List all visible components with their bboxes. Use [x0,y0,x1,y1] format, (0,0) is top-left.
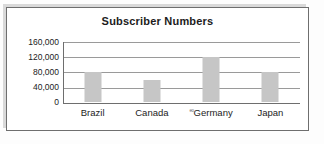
chart-title: Subscriber Numbers [6,15,309,27]
bar-slot-germany [182,41,241,102]
y-tick-0: 0 [13,97,59,107]
x-axis-tick-labels: Brazil Canada eoGermany Japan [63,107,300,123]
bar-canada[interactable] [143,80,160,102]
bar-chart: Subscriber Numbers 160,000 120,000 80,00… [6,7,309,131]
y-tick-80000: 80,000 [13,67,59,77]
bar-brazil[interactable] [84,72,101,103]
x-tick-japan: Japan [241,107,300,118]
y-tick-40000: 40,000 [13,82,59,92]
x-tick-canada: Canada [122,107,181,118]
y-tick-160000: 160,000 [13,37,59,47]
y-tick-120000: 120,000 [13,52,59,62]
scanned-page: Subscriber Numbers 160,000 120,000 80,00… [0,0,324,144]
y-axis-tick-labels: 160,000 120,000 80,000 40,000 0 [11,42,59,103]
x-tick-brazil: Brazil [63,107,122,118]
plot-area [63,42,300,103]
x-axis-line [63,103,300,104]
bar-japan[interactable] [262,72,279,102]
bar-slot-japan [241,41,300,102]
bar-slot-canada [122,41,181,102]
x-tick-germany-label: Germany [194,107,233,118]
x-tick-germany: eoGermany [182,107,241,118]
bar-slot-brazil [63,41,122,102]
bar-germany[interactable] [203,57,220,102]
